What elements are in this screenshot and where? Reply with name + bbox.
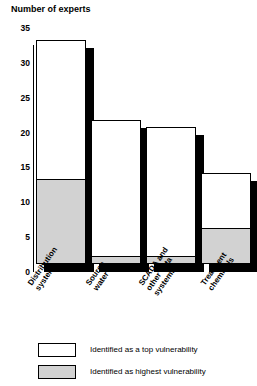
legend-swatch-gray <box>38 365 76 379</box>
bar-distribution-systems[interactable] <box>36 40 94 272</box>
bar-body <box>201 173 251 264</box>
plot-area: 35 30 25 20 15 10 5 0 <box>0 0 257 290</box>
legend-swatch-white <box>38 343 76 357</box>
bars-layer <box>0 0 257 290</box>
legend-item-highest-vulnerability: Identified as highest vulnerability <box>38 364 253 380</box>
x-axis-labels: Distribution systems Source water SCADA … <box>0 276 257 338</box>
legend-label: Identified as a top vulnerability <box>90 345 198 354</box>
bar-body <box>36 40 86 264</box>
bar-segment-highest-vulnerability <box>37 179 85 263</box>
legend-label: Identified as highest vulnerability <box>90 367 206 376</box>
bar-body <box>91 120 141 264</box>
bar-segment-top-vulnerability <box>37 41 85 181</box>
bar-segment-top-vulnerability <box>147 128 195 258</box>
bar-body <box>146 127 196 264</box>
bar-scada-other-data-systems[interactable] <box>146 127 204 272</box>
chart-legend: Identified as a top vulnerability Identi… <box>0 340 257 386</box>
bar-chart: Number of experts 35 30 25 20 15 10 5 0 <box>0 0 257 386</box>
legend-item-top-vulnerability: Identified as a top vulnerability <box>38 342 253 358</box>
bar-segment-top-vulnerability <box>202 174 250 230</box>
bar-source-water[interactable] <box>91 120 149 272</box>
bar-segment-top-vulnerability <box>92 121 140 258</box>
